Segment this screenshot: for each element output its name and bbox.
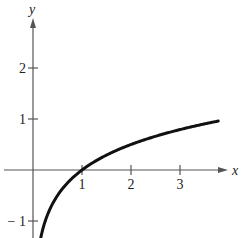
y-tick-label: 1 [19,112,26,127]
y-tick-label: 2 [19,61,26,76]
ticks: 123− 112 [8,61,184,229]
axes [4,18,228,238]
x-tick-label: 3 [177,177,184,192]
y-tick-label: − 1 [8,214,26,229]
y-axis-arrow-icon [30,18,36,28]
y-axis-label: y [27,2,36,17]
x-tick-label: 1 [79,177,86,192]
function-graph: 123− 112 x y [0,0,243,238]
x-axis-label: x [231,163,239,178]
x-axis-arrow-icon [218,167,228,173]
x-tick-label: 2 [128,177,135,192]
